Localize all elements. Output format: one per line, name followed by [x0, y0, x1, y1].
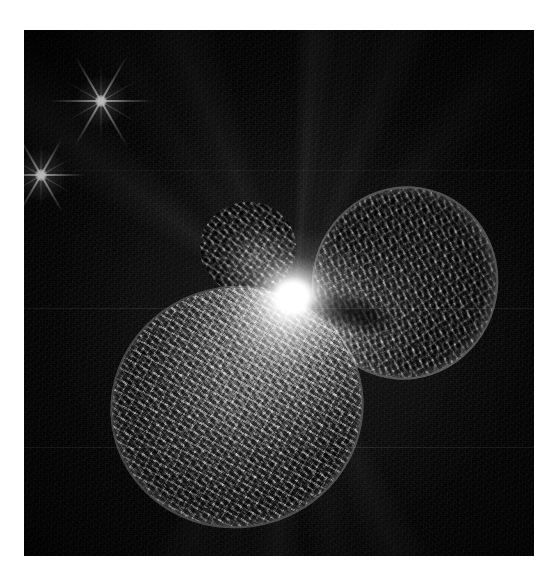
diffraction-spike — [24, 158, 71, 193]
diffraction-spike — [65, 81, 137, 123]
diffraction-spike — [49, 100, 153, 102]
star-glow — [24, 149, 67, 201]
sky-background — [24, 30, 534, 556]
field-star-2 — [24, 152, 64, 198]
central-core — [246, 254, 342, 340]
figure-page — [0, 0, 549, 582]
diffraction-spike — [24, 137, 63, 212]
core-glow — [199, 212, 389, 382]
radial-rays — [24, 30, 534, 556]
diffraction-spike — [24, 174, 84, 176]
diffraction-spike — [65, 81, 137, 123]
lobe-southwest-rim — [84, 259, 389, 555]
scanline-artifact — [24, 447, 534, 448]
scanline-artifact — [24, 308, 534, 309]
diffraction-spike — [74, 55, 128, 146]
plate-grain — [24, 30, 534, 556]
plate-vignette — [24, 30, 534, 556]
diffraction-spike — [74, 55, 128, 146]
radial-rays-faint — [24, 30, 534, 556]
lobe-northeast — [291, 167, 518, 400]
lobe-southwest — [87, 261, 387, 552]
lobe-northeast-rim — [289, 164, 521, 402]
nebula-halo — [24, 30, 534, 556]
diffraction-spike — [24, 137, 63, 212]
scanline-artifact — [24, 170, 534, 171]
astronomical-image-plate[interactable] — [24, 30, 534, 556]
diffraction-spike — [101, 61, 102, 143]
dark-equatorial-lane — [296, 276, 424, 353]
star-point-source — [35, 169, 47, 181]
diffraction-spike — [41, 142, 42, 210]
sky-background-grain — [24, 30, 534, 556]
diffraction-spike — [24, 158, 71, 193]
star-point-source — [95, 95, 107, 107]
core-hotspot — [271, 277, 317, 317]
star-glow — [75, 75, 127, 127]
field-star-1 — [78, 78, 124, 124]
upper-condensation-knot — [194, 196, 302, 300]
